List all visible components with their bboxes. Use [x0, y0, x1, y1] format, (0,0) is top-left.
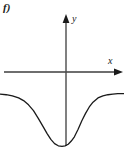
- y-axis-up-arrow-icon: [63, 14, 70, 23]
- figure-container: f) y x: [0, 0, 124, 149]
- plot-canvas: [0, 0, 124, 149]
- x-axis-label: x: [108, 56, 112, 66]
- x-axis-right-arrow-icon: [114, 69, 123, 76]
- negative-gaussian-curve: [0, 94, 124, 147]
- y-axis-label: y: [72, 14, 76, 24]
